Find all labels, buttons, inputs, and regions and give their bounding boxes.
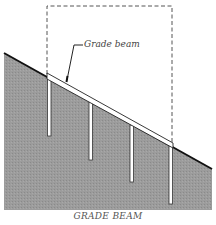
callout-leader-tip <box>67 76 68 82</box>
callout-leader-line <box>67 45 83 80</box>
ground-mass <box>4 53 212 210</box>
pier-1 <box>48 78 52 136</box>
pier-3 <box>130 125 134 182</box>
grade-beam-diagram <box>0 0 216 225</box>
figure-caption: GRADE BEAM <box>0 211 216 221</box>
pier-2 <box>89 102 93 160</box>
pier-4 <box>169 146 173 204</box>
grade-beam-label: Grade beam <box>84 39 140 49</box>
